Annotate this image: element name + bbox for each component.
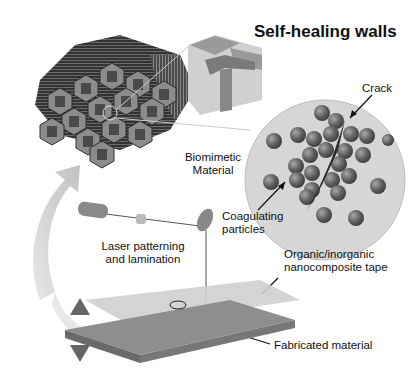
diagram-canvas: Self-healing walls Crack Biomimetic Mate… — [0, 0, 412, 387]
label-coagulating-line1: Coagulating — [222, 210, 283, 223]
diagram-graphics — [0, 0, 412, 387]
laminated-tape-stack — [65, 280, 300, 363]
hexagonal-honeycomb-structure — [35, 35, 195, 168]
label-biomimetic-line1: Biomimetic — [168, 151, 258, 164]
diagram-title: Self-healing walls — [254, 22, 397, 42]
label-coagulating-particles: Coagulating particles — [222, 210, 283, 236]
magnified-particle-circle — [245, 100, 405, 260]
label-tape-line2: nanocomposite tape — [284, 261, 388, 274]
label-crack: Crack — [362, 82, 392, 95]
label-coagulating-line2: particles — [222, 223, 283, 236]
label-biomimetic-line2: Material — [168, 164, 258, 177]
wall-junction-zoom-block — [188, 35, 262, 115]
label-laser-line1: Laser patterning — [88, 240, 198, 253]
label-laser-patterning: Laser patterning and lamination — [88, 240, 198, 266]
label-biomimetic-material: Biomimetic Material — [168, 151, 258, 177]
label-fabricated-material: Fabricated material — [274, 339, 372, 352]
label-nanocomposite-tape: Organic/inorganic nanocomposite tape — [284, 248, 388, 274]
label-laser-line2: and lamination — [88, 253, 198, 266]
label-tape-line1: Organic/inorganic — [284, 248, 388, 261]
